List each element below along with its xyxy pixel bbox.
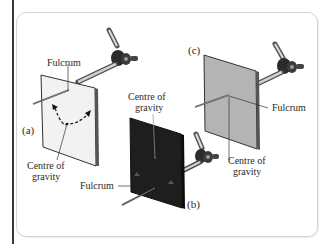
- clamp-stand-icon: [78, 30, 138, 82]
- panel-b-fulcrum-label: Fulcrum: [80, 180, 114, 191]
- panel-a-tag: (a): [22, 124, 34, 136]
- clamp-stand-icon: [257, 44, 304, 84]
- panel-b-tag: (b): [187, 198, 200, 210]
- panel-c-cog-label-line1: Centre of: [228, 155, 266, 166]
- panel-c-fulcrum-label: Fulcrum: [272, 102, 306, 113]
- panel-c-cog-label-line2: gravity: [233, 166, 261, 177]
- panel-c-tag: (c): [188, 44, 200, 56]
- panel-b-cog-label-line1: Centre of: [128, 91, 166, 102]
- panel-a: [33, 30, 138, 166]
- panel-a-cog-label-line1: Centre of: [27, 160, 65, 171]
- panel-b: [118, 114, 219, 209]
- panel-a-cog-label-line2: gravity: [32, 171, 60, 182]
- panel-b-cog-label-line2: gravity: [135, 102, 163, 113]
- pivot-diagram: [0, 0, 333, 244]
- panel-a-fulcrum-label: Fulcrum: [47, 57, 81, 68]
- clamp-stand-icon: [180, 134, 219, 172]
